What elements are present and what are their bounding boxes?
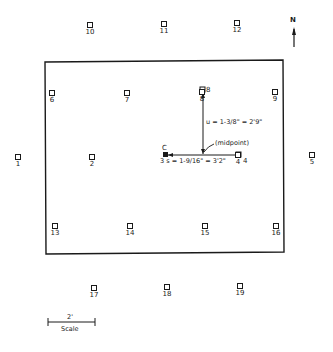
marker-number: 7	[119, 97, 135, 104]
point-c-label: C	[162, 144, 167, 152]
marker-number: 17	[86, 292, 102, 299]
survey-marker: 1	[10, 154, 26, 168]
scale-distance-label: 2'	[67, 313, 73, 321]
survey-marker: 12	[229, 20, 245, 34]
marker-number: 2	[84, 161, 100, 168]
marker-number: 13	[47, 230, 63, 237]
marker-number: 9	[267, 96, 283, 103]
midpoint-label: (midpoint)	[215, 139, 249, 147]
marker-4-label: 4	[243, 157, 247, 165]
survey-marker: 7	[119, 90, 135, 104]
marker-number: 8	[194, 96, 210, 103]
survey-marker: 10	[82, 22, 98, 36]
marker-number: 12	[229, 27, 245, 34]
marker-8-label: 8	[206, 86, 210, 94]
scale-caption: Scale	[61, 325, 79, 333]
survey-marker: 14	[122, 223, 138, 237]
marker-number: 14	[122, 230, 138, 237]
marker-number: 11	[156, 28, 172, 35]
marker-number: 19	[232, 290, 248, 297]
marker-number: 5	[304, 159, 320, 166]
survey-marker: 16	[268, 223, 284, 237]
midpoint-leader-line	[204, 144, 214, 152]
marker-number: 10	[82, 29, 98, 36]
survey-marker: 17	[86, 285, 102, 299]
survey-marker: 13	[47, 223, 63, 237]
survey-marker: 2	[84, 154, 100, 168]
site-plan-diagram: N 1011126789124513141516171819 8 4 C u =…	[0, 0, 333, 352]
vertical-measure-label: u = 1-3/8" = 2'9"	[206, 118, 262, 126]
marker-number: 18	[159, 291, 175, 298]
north-arrow-icon	[292, 27, 296, 47]
survey-marker: 18	[159, 284, 175, 298]
survey-marker: 6	[44, 90, 60, 104]
marker-number: 6	[44, 97, 60, 104]
survey-marker: 11	[156, 21, 172, 35]
survey-marker: 9	[267, 89, 283, 103]
marker-number: 16	[268, 230, 284, 237]
compass-north-label: N	[290, 16, 296, 24]
survey-marker: 19	[232, 283, 248, 297]
marker-number: 15	[197, 230, 213, 237]
survey-marker: 5	[304, 152, 320, 166]
marker-number: 1	[10, 161, 26, 168]
horizontal-measure-label: 3 s = 1-9/16" = 3'2"	[160, 157, 226, 165]
survey-marker: 15	[197, 223, 213, 237]
diagram-lines	[0, 0, 333, 352]
